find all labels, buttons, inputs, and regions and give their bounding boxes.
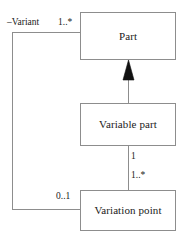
association-role-label-variant: –Variant	[7, 18, 39, 28]
assoc-variation-to-part-line	[13, 32, 81, 209]
uml-class-diagram: Part Variable part Variation point –Vari…	[0, 0, 186, 238]
class-box-variable-part[interactable]: Variable part	[80, 103, 176, 146]
generalization-arrowhead	[123, 60, 134, 80]
class-box-part[interactable]: Part	[80, 12, 176, 60]
class-name-part: Part	[119, 30, 137, 42]
multiplicity-label-variation-point-end: 1..*	[131, 171, 145, 181]
multiplicity-label-variation-point-assoc: 0..1	[56, 192, 70, 202]
class-box-variation-point[interactable]: Variation point	[80, 190, 176, 231]
class-name-variation-point: Variation point	[94, 204, 161, 216]
multiplicity-label-variable-part-end: 1	[131, 152, 136, 162]
class-name-variable-part: Variable part	[99, 118, 157, 130]
multiplicity-label-variant: 1..*	[58, 18, 72, 28]
